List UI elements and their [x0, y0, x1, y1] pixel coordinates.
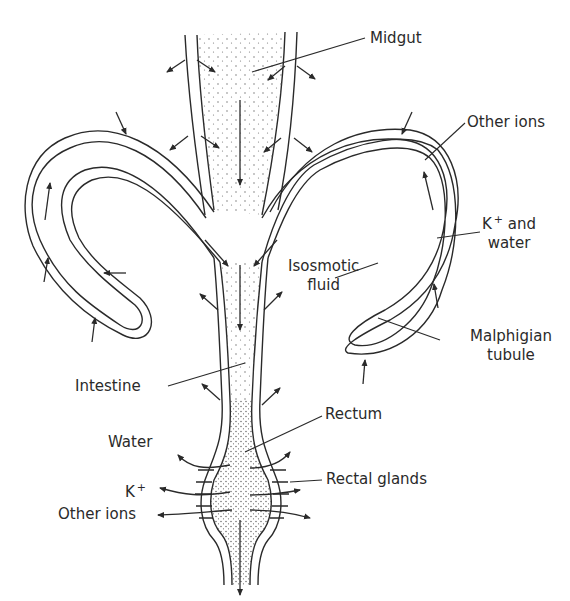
right-malpighian-tubule	[262, 129, 458, 354]
malpighian-line1: Malphigian	[470, 327, 552, 345]
plus-superscript: +	[494, 213, 503, 226]
label-intestine: Intestine	[75, 377, 141, 396]
label-k-and-water: K+ and water	[482, 210, 536, 253]
midgut-stipple	[197, 32, 285, 215]
label-other-ions-left: Other ions	[58, 505, 136, 524]
label-other-ions-top: Other ions	[467, 113, 545, 132]
label-midgut: Midgut	[370, 29, 422, 48]
k-left-superscript: +	[137, 481, 146, 494]
isosmotic-line1: Isosmotic	[288, 257, 359, 275]
malpighian-line2: tubule	[487, 346, 535, 364]
isosmotic-line2: fluid	[307, 276, 340, 294]
water-text: water	[488, 234, 531, 252]
label-rectum: Rectum	[325, 405, 382, 424]
k-left-symbol: K	[125, 483, 135, 501]
label-water: Water	[108, 433, 152, 452]
label-k-left: K+	[125, 478, 146, 502]
label-malpighian-tubule: Malphigian tubule	[470, 327, 552, 365]
and-text: and	[508, 215, 536, 233]
label-isosmotic-fluid: Isosmotic fluid	[288, 257, 359, 295]
left-malpighian-tubule	[25, 131, 220, 338]
rectum-stipple	[211, 400, 272, 585]
k-symbol: K	[482, 215, 492, 233]
label-rectal-glands: Rectal glands	[326, 470, 427, 489]
